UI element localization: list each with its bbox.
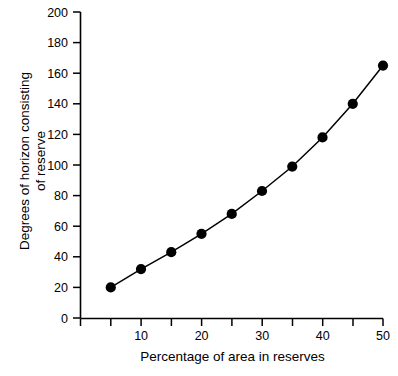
x-tick-label-30: 30 [255, 329, 269, 343]
data-point [196, 229, 206, 239]
y-tick-label-20: 20 [54, 281, 68, 295]
y-tick-label-60: 60 [54, 220, 68, 234]
x-tick-label-20: 20 [195, 329, 209, 343]
data-point [378, 60, 388, 70]
data-point [106, 282, 116, 292]
data-point [317, 132, 327, 142]
line-chart-plot: 0 20 40 60 80 100 120 140 160 180 200 [0, 0, 398, 376]
x-tick-label-50: 50 [376, 329, 390, 343]
x-axis-title-text: Percentage of area in reserves [140, 349, 325, 364]
y-tick-label-200: 200 [47, 6, 68, 20]
y-tick-label-0: 0 [61, 312, 68, 326]
data-point [227, 209, 237, 219]
x-axis-title: Percentage of area in reserves [80, 347, 385, 365]
x-tick-label-10: 10 [134, 329, 148, 343]
y-tick-label-160: 160 [47, 67, 68, 81]
data-point [166, 247, 176, 257]
data-point [257, 186, 267, 196]
y-tick-label-120: 120 [47, 128, 68, 142]
y-tick-label-140: 140 [47, 97, 68, 111]
y-tick-label-100: 100 [47, 159, 68, 173]
y-tick-label-80: 80 [54, 189, 68, 203]
data-point [136, 264, 146, 274]
chart-background [0, 0, 398, 376]
y-tick-label-40: 40 [54, 250, 68, 264]
x-tick-label-40: 40 [316, 329, 330, 343]
y-tick-label-180: 180 [47, 36, 68, 50]
data-point [287, 161, 297, 171]
chart-figure: 0 20 40 60 80 100 120 140 160 180 200 [0, 0, 398, 376]
data-point [348, 99, 358, 109]
